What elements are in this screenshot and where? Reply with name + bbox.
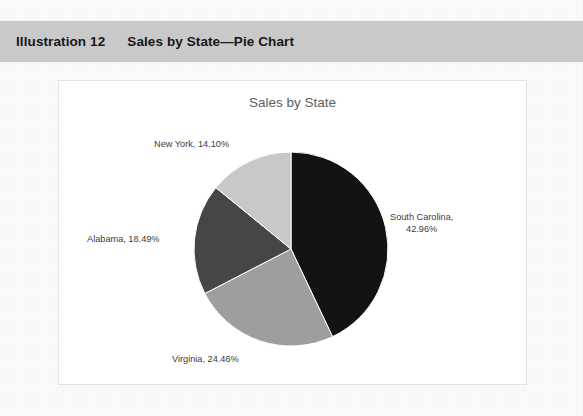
pie-slice-group: [194, 152, 388, 346]
pie-label-south-carolina: South Carolina, 42.96%: [390, 211, 453, 235]
illustration-title: Sales by State—Pie Chart: [127, 34, 294, 49]
pie-label-south-carolina-line1: South Carolina,: [390, 211, 453, 223]
illustration-caption-band: Illustration 12 Sales by State—Pie Chart: [0, 21, 583, 62]
pie-label-alabama: Alabama, 18.49%: [87, 233, 160, 245]
chart-panel: Sales by State New York, 14.10% Alabama,…: [58, 80, 527, 385]
illustration-number: Illustration 12: [16, 34, 105, 49]
pie-label-south-carolina-line2: 42.96%: [390, 223, 453, 235]
pie-label-new-york: New York, 14.10%: [154, 138, 229, 150]
caption-inner: Illustration 12 Sales by State—Pie Chart: [16, 34, 294, 49]
pie-label-virginia: Virginia, 24.46%: [172, 353, 239, 365]
pie-plot-area: New York, 14.10% Alabama, 18.49% Virgini…: [59, 81, 526, 384]
